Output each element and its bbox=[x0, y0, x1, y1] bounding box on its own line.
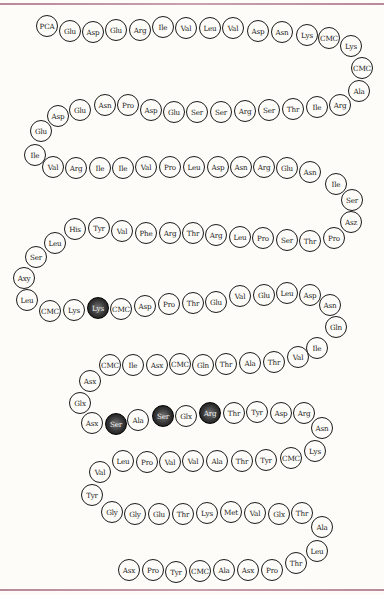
residue: Val bbox=[244, 502, 266, 524]
residue: Pro bbox=[158, 293, 180, 315]
residue: Gly bbox=[124, 503, 146, 525]
residue: Glx bbox=[69, 392, 91, 414]
residue: Ala bbox=[206, 450, 228, 472]
residue: Thr bbox=[299, 230, 321, 252]
residue: Lys bbox=[196, 502, 218, 524]
residue: Glu bbox=[276, 157, 298, 179]
residue: Asn bbox=[94, 94, 116, 116]
residue: Lys bbox=[304, 440, 326, 462]
residue: Asp bbox=[134, 295, 156, 317]
residue: Glu bbox=[205, 291, 227, 313]
residue: Ser bbox=[25, 246, 47, 268]
residue: Arg bbox=[234, 100, 256, 122]
residue: Glu bbox=[163, 101, 185, 123]
residue: CMC bbox=[169, 353, 191, 375]
residue: Glx bbox=[175, 405, 197, 427]
residue: Asn bbox=[271, 21, 293, 43]
residue: Axy bbox=[13, 267, 35, 289]
residue: Asx bbox=[81, 412, 103, 434]
residue: CMC bbox=[39, 300, 61, 322]
residue: PCA bbox=[36, 15, 58, 37]
residue: Ile bbox=[89, 157, 111, 179]
residue: Val bbox=[182, 450, 204, 472]
residue: Val bbox=[287, 346, 309, 368]
bottom-rule bbox=[0, 589, 384, 591]
residue: Glu bbox=[253, 284, 275, 306]
residue: Thr bbox=[223, 402, 245, 424]
residue: Pro bbox=[142, 559, 164, 581]
residue: Gly bbox=[101, 501, 123, 523]
residue: Pro bbox=[323, 227, 345, 249]
residue: Asx bbox=[79, 370, 101, 392]
residue: Asp bbox=[140, 99, 162, 121]
residue: Asx bbox=[237, 559, 259, 581]
residue: Pro bbox=[252, 227, 274, 249]
residue: His bbox=[64, 218, 86, 240]
residue-highlighted: Lys bbox=[87, 297, 109, 319]
residue: Asx bbox=[146, 354, 168, 376]
residue: Val bbox=[42, 156, 64, 178]
residue: Lys bbox=[296, 24, 318, 46]
residue: Thr bbox=[285, 552, 307, 574]
residue: Tyr bbox=[246, 401, 268, 423]
residue-highlighted: Arg bbox=[199, 402, 221, 424]
residue: Glu bbox=[69, 99, 91, 121]
residue-highlighted: Ser bbox=[152, 405, 174, 427]
residue: Glu bbox=[59, 20, 81, 42]
residue: Met bbox=[220, 501, 242, 523]
residue: Asp bbox=[82, 21, 104, 43]
residue: Arg bbox=[65, 157, 87, 179]
residue: Val bbox=[159, 451, 181, 473]
residue: Leu bbox=[306, 540, 328, 562]
residue: Ser bbox=[210, 101, 232, 123]
residue: Asz bbox=[340, 211, 362, 233]
residue: Gln bbox=[192, 354, 214, 376]
residue: Leu bbox=[199, 17, 221, 39]
residue: Pro bbox=[159, 156, 181, 178]
residue: Arg bbox=[293, 402, 315, 424]
residue: Tyr bbox=[81, 484, 103, 506]
residue: Ile bbox=[122, 354, 144, 376]
residue: Arg bbox=[129, 19, 151, 41]
residue: Val bbox=[135, 156, 157, 178]
residue: Pro bbox=[261, 559, 283, 581]
residue: Glx bbox=[268, 503, 290, 525]
residue: Val bbox=[229, 285, 251, 307]
residue: Lys bbox=[340, 35, 362, 57]
residue: Lys bbox=[63, 299, 85, 321]
amino-acid-sequence-chain: PCAGluAspGluArgIleValLeuValAspAsnLysCMCL… bbox=[0, 0, 384, 595]
residue: Ala bbox=[213, 559, 235, 581]
residue: Thr bbox=[215, 353, 237, 375]
residue: Tyr bbox=[255, 449, 277, 471]
residue: Pro bbox=[136, 451, 158, 473]
residue: Thr bbox=[231, 450, 253, 472]
residue: Asp bbox=[247, 20, 269, 42]
residue: Val bbox=[89, 461, 111, 483]
residue: Ile bbox=[112, 157, 134, 179]
residue: Thr bbox=[182, 222, 204, 244]
residue: Leu bbox=[112, 450, 134, 472]
residue: Pro bbox=[117, 94, 139, 116]
residue: Thr bbox=[282, 98, 304, 120]
residue: Ser bbox=[258, 99, 280, 121]
residue: Thr bbox=[291, 502, 313, 524]
residue: Ala bbox=[311, 516, 333, 538]
residue: Asn bbox=[311, 417, 333, 439]
residue-highlighted: Ser bbox=[105, 413, 127, 435]
residue: CMC bbox=[99, 354, 121, 376]
residue: Glu bbox=[148, 503, 170, 525]
residue: Arg bbox=[205, 224, 227, 246]
residue: Leu bbox=[183, 156, 205, 178]
residue: Glu bbox=[105, 19, 127, 41]
residue: Tyr bbox=[88, 217, 110, 239]
residue: Asp bbox=[299, 284, 321, 306]
residue: Val bbox=[175, 17, 197, 39]
residue: Ala bbox=[239, 352, 261, 374]
residue: Thr bbox=[263, 351, 285, 373]
residue: Ala bbox=[127, 409, 149, 431]
residue: Asn bbox=[319, 294, 341, 316]
residue: Arg bbox=[159, 222, 181, 244]
residue: Leu bbox=[229, 226, 251, 248]
residue: Asp bbox=[270, 402, 292, 424]
residue: Tyr bbox=[165, 561, 187, 583]
